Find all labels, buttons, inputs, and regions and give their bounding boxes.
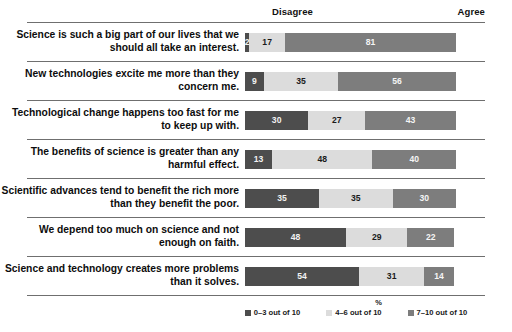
- chart-row: Scientific advances tend to benefit the …: [0, 179, 512, 217]
- row-label: New technologies excite me more than the…: [0, 68, 245, 93]
- stacked-bar: 302743: [245, 111, 456, 130]
- legend-item: 0–3 out of 10: [245, 308, 300, 317]
- bar-segment-0: 35: [245, 189, 319, 208]
- legend-swatch-icon: [408, 310, 414, 316]
- bar-segment-1: 27: [308, 111, 365, 130]
- stacked-bar: 93556: [245, 72, 456, 91]
- legend-item: 7–10 out of 10: [408, 308, 468, 317]
- bar-segment-2: 81: [285, 33, 456, 52]
- row-label: Science is such a big part of our lives …: [0, 29, 245, 54]
- bar-segment-0: 48: [245, 228, 346, 247]
- bar-segment-2: 56: [338, 72, 456, 91]
- legend-label: 0–3 out of 10: [254, 308, 300, 317]
- chart-header: Disagree Agree: [0, 4, 512, 22]
- bar-segment-2: 22: [407, 228, 453, 247]
- chart-row: The benefits of science is greater than …: [0, 140, 512, 178]
- bar-segment-2: 40: [372, 150, 456, 169]
- legend-swatch-icon: [245, 310, 251, 316]
- stacked-bar: 134840: [245, 150, 456, 169]
- legend-label: 4–6 out of 10: [335, 308, 381, 317]
- bar-segment-1: 35: [264, 72, 338, 91]
- bar-segment-0: 9: [245, 72, 264, 91]
- bar-segment-0: 13: [245, 150, 272, 169]
- bar-segment-2: 14: [424, 267, 454, 286]
- disagree-axis-label: Disagree: [272, 6, 313, 17]
- chart-row: New technologies excite me more than the…: [0, 62, 512, 100]
- stacked-bar: 21781: [245, 33, 456, 52]
- chart-row: We depend too much on science and not en…: [0, 218, 512, 256]
- row-label: Science and technology creates more prob…: [0, 263, 245, 288]
- chart-rows: Science is such a big part of our lives …: [0, 22, 512, 296]
- row-divider: [27, 295, 485, 296]
- stacked-bar: 353530: [245, 189, 456, 208]
- stacked-bar-chart: Disagree Agree Science is such a big par…: [0, 0, 512, 332]
- bar-segment-1: 48: [272, 150, 372, 169]
- legend-swatch-icon: [326, 310, 332, 316]
- chart-legend: 0–3 out of 104–6 out of 107–10 out of 10: [0, 308, 512, 317]
- row-label: We depend too much on science and not en…: [0, 224, 245, 249]
- bar-segment-2: 43: [365, 111, 456, 130]
- bar-segment-1: 29: [346, 228, 407, 247]
- bar-segment-1: 17: [249, 33, 285, 52]
- legend-item: 4–6 out of 10: [326, 308, 381, 317]
- legend-label: 7–10 out of 10: [417, 308, 468, 317]
- bar-segment-0: 54: [245, 267, 359, 286]
- row-label: The benefits of science is greater than …: [0, 146, 245, 171]
- stacked-bar: 543114: [245, 267, 456, 286]
- stacked-bar: 482922: [245, 228, 456, 247]
- x-axis-label: %: [0, 298, 512, 307]
- row-label: Scientific advances tend to benefit the …: [0, 185, 245, 210]
- row-label: Technological change happens too fast fo…: [0, 107, 245, 132]
- bar-segment-1: 35: [319, 189, 393, 208]
- chart-row: Science is such a big part of our lives …: [0, 23, 512, 61]
- bar-segment-2: 30: [393, 189, 456, 208]
- bar-segment-1: 31: [359, 267, 424, 286]
- agree-axis-label: Agree: [458, 6, 485, 17]
- chart-row: Technological change happens too fast fo…: [0, 101, 512, 139]
- chart-row: Science and technology creates more prob…: [0, 257, 512, 295]
- bar-segment-0: 30: [245, 111, 308, 130]
